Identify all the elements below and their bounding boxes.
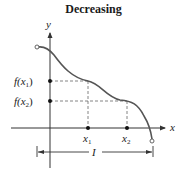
open-endpoint-right: [150, 139, 154, 143]
fx1-point: [48, 79, 52, 83]
fx1-label: f(x1): [14, 75, 33, 89]
guide-lines: [50, 81, 127, 128]
x2-label: x2: [121, 132, 131, 146]
y-axis-label: y: [45, 18, 51, 30]
interval-label: I: [91, 146, 97, 158]
x1-label: x1: [82, 132, 92, 146]
x1-point: [86, 126, 90, 130]
fx2-point: [48, 99, 52, 103]
decreasing-curve: [38, 47, 152, 139]
x2-point: [125, 126, 129, 130]
open-endpoint-left: [35, 45, 39, 49]
x-axis-label: x: [169, 121, 175, 133]
fx2-label: f(x2): [14, 95, 33, 109]
function-graph: x y f(x1) f(x2) x1 x2 I: [0, 0, 187, 177]
